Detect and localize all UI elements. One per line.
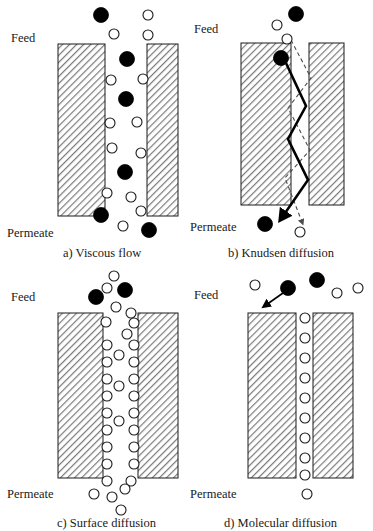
light-particle	[102, 340, 112, 350]
light-particle	[102, 408, 112, 418]
light-particle	[102, 476, 112, 486]
light-particle	[129, 374, 139, 384]
light-particle	[300, 393, 310, 403]
light-particle	[111, 302, 121, 312]
dark-particle	[281, 281, 296, 296]
light-particle	[353, 283, 363, 293]
membrane-transport-diagram: Feed Permeate	[0, 0, 373, 531]
panel-d-permeate-label: Permeate	[190, 487, 237, 501]
light-particle	[300, 373, 310, 383]
light-particle	[300, 433, 310, 443]
light-particle	[126, 308, 136, 318]
light-particle	[250, 280, 260, 290]
light-particle	[114, 350, 124, 360]
light-particle	[300, 453, 310, 463]
dark-particle	[289, 7, 304, 22]
light-particle	[102, 425, 112, 435]
light-particle	[129, 408, 139, 418]
dark-particle	[94, 208, 109, 223]
panel-c-caption: c) Surface diffusion	[57, 516, 157, 530]
dark-particle	[310, 273, 325, 288]
membrane-block-right	[313, 313, 353, 478]
panel-c-feed-label: Feed	[11, 290, 36, 304]
light-particle	[129, 318, 139, 328]
membrane-block-right	[138, 313, 178, 478]
light-particle	[129, 442, 139, 452]
membrane-block-left	[58, 313, 103, 478]
light-particle	[89, 489, 99, 499]
panel-b-feed-label: Feed	[194, 22, 219, 36]
dark-particle	[118, 283, 133, 298]
light-particle	[102, 442, 112, 452]
light-particle	[114, 416, 124, 426]
light-particle	[143, 30, 153, 40]
light-particle	[129, 357, 139, 367]
light-particle	[129, 391, 139, 401]
dark-particle	[274, 51, 289, 66]
light-particle	[102, 357, 112, 367]
membrane-block-left	[241, 43, 291, 205]
dark-particle	[142, 223, 157, 238]
light-particle	[101, 317, 111, 327]
dark-particle	[120, 52, 135, 67]
light-particle	[136, 206, 146, 216]
light-particle	[105, 118, 115, 128]
panel-d-feed-label: Feed	[194, 288, 219, 302]
light-particle	[129, 340, 139, 350]
light-particle	[272, 20, 282, 30]
panel-a-caption: a) Viscous flow	[63, 246, 141, 260]
light-particle	[122, 329, 132, 339]
panel-a-permeate-label: Permeate	[7, 226, 54, 240]
membrane-block-right	[147, 44, 178, 216]
light-particle	[300, 333, 310, 343]
light-particle	[138, 74, 148, 84]
light-particle	[136, 148, 146, 158]
dark-particle	[118, 165, 133, 180]
light-particle	[109, 29, 119, 39]
dark-particle	[119, 92, 134, 107]
light-particle	[120, 484, 130, 494]
light-particle	[300, 353, 310, 363]
light-particle	[109, 271, 119, 281]
figure-container: Feed Permeate	[0, 0, 373, 531]
light-particle	[282, 34, 292, 44]
light-particle	[102, 283, 112, 293]
light-particle	[107, 492, 117, 502]
light-particle	[300, 313, 310, 323]
light-particle	[116, 505, 126, 515]
light-particle	[132, 117, 142, 127]
light-particle	[102, 374, 112, 384]
panel-c-permeate-label: Permeate	[7, 487, 54, 501]
light-particle	[300, 413, 310, 423]
dark-particle	[94, 8, 109, 23]
light-particle	[126, 192, 136, 202]
membrane-block-left	[58, 44, 105, 216]
light-particle	[118, 221, 128, 231]
light-particle	[102, 459, 112, 469]
light-particle	[332, 288, 342, 298]
light-particle	[143, 10, 153, 20]
panel-a-feed-label: Feed	[11, 31, 36, 45]
dark-particle	[258, 217, 273, 232]
panel-b-permeate-label: Permeate	[190, 220, 237, 234]
dark-particle	[89, 290, 104, 305]
light-particle	[102, 188, 112, 198]
light-particle	[302, 489, 312, 499]
panel-d-caption: d) Molecular diffusion	[224, 516, 338, 530]
panel-b-caption: b) Knudsen diffusion	[228, 246, 335, 260]
light-particle	[129, 459, 139, 469]
light-particle	[102, 391, 112, 401]
light-particle	[300, 470, 310, 480]
light-particle	[114, 381, 124, 391]
light-particle	[295, 227, 305, 237]
membrane-block-right	[309, 43, 344, 205]
light-particle	[106, 75, 116, 85]
membrane-block-left	[248, 313, 296, 478]
light-particle	[107, 143, 117, 153]
light-particle	[129, 425, 139, 435]
